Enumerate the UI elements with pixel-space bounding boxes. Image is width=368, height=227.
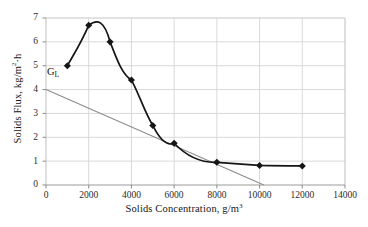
y-axis-title: Solids Flux, kg/m2·h [12, 19, 23, 179]
x-axis-title-text: Solids Concentration, g/m [125, 203, 239, 214]
x-axis-ticks [46, 185, 345, 189]
x-tick-label-0: 0 [23, 191, 69, 201]
y-axis-title-text: Solids Flux, kg/m [12, 66, 23, 144]
solids-flux-chart: 7 6 5 4 3 2 1 0 0 2000 4000 6000 8000 10… [0, 0, 368, 227]
gl-annotation-base: G [47, 66, 55, 77]
x-axis-title: Solids Concentration, g/m3 [0, 203, 368, 214]
y-axis-title-suffix: ·h [12, 54, 23, 63]
y-axis-ticks [43, 18, 47, 185]
y-tick-label-0: 0 [16, 180, 38, 190]
x-tick-label-12000: 12000 [279, 191, 325, 201]
x-tick-label-8000: 8000 [194, 191, 240, 201]
x-tick-label-2000: 2000 [66, 191, 112, 201]
x-tick-label-14000: 14000 [322, 191, 368, 201]
y-axis-title-exponent: 2 [10, 63, 17, 66]
x-tick-label-4000: 4000 [108, 191, 154, 201]
gl-annotation-label: GL [47, 66, 59, 77]
x-tick-label-6000: 6000 [151, 191, 197, 201]
x-tick-label-10000: 10000 [237, 191, 283, 201]
gl-annotation-subscript: L [55, 70, 60, 79]
plot-area-background [46, 18, 345, 185]
x-axis-title-exponent: 3 [239, 202, 242, 209]
